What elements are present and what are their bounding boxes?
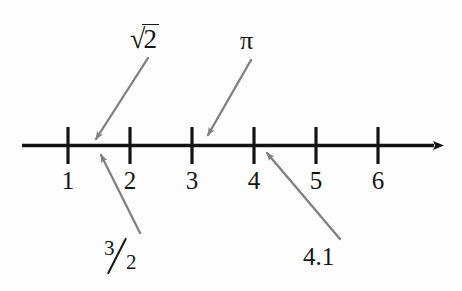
leader-arrow-pi [208, 60, 251, 135]
annotation-label-three-halves: 3 2 [104, 238, 148, 278]
tick-label-6: 6 [363, 168, 393, 193]
fraction-denominator: 2 [126, 252, 137, 273]
fraction-numerator: 3 [104, 238, 115, 259]
leader-arrow-four-point-one [267, 153, 340, 239]
tick-label-2: 2 [115, 168, 145, 193]
leader-arrow-sqrt2 [96, 58, 148, 139]
fraction-expression: 3 2 [104, 238, 148, 274]
tick-label-4: 4 [239, 168, 269, 193]
radical-expression: √2 [130, 24, 159, 53]
tick-label-3: 3 [177, 168, 207, 193]
annotation-label-sqrt2: √2 [130, 24, 159, 53]
number-line-figure: 1 2 3 4 5 6 √2 π 3 2 4.1 [0, 0, 462, 291]
radicand-value: 2 [142, 24, 159, 53]
number-line-graphics [0, 0, 462, 291]
tick-label-5: 5 [301, 168, 331, 193]
annotation-label-pi: π [240, 28, 253, 54]
tick-label-1: 1 [53, 168, 83, 193]
annotation-label-four-point-one: 4.1 [303, 244, 334, 269]
